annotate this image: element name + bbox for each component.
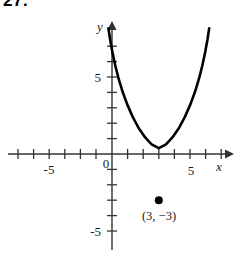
x-axis-label: x xyxy=(215,159,222,174)
y-tick-label-neg5: -5 xyxy=(90,224,101,239)
axes-group xyxy=(8,21,234,250)
parabola-curve xyxy=(108,28,209,148)
vertex-point-marker xyxy=(155,196,163,204)
x-axis-arrowhead xyxy=(225,149,234,158)
origin-label: 0 xyxy=(103,156,110,171)
y-axis-label: y xyxy=(95,19,103,34)
graph-svg: y x -5 5 5 -5 0 (3, −3) xyxy=(0,0,238,258)
x-tick-label-neg5: -5 xyxy=(44,162,55,177)
y-tick-label-5: 5 xyxy=(95,70,102,85)
x-tick-label-5: 5 xyxy=(188,163,195,178)
vertex-point-label: (3, −3) xyxy=(142,209,176,223)
figure-container: 27. xyxy=(0,0,238,258)
